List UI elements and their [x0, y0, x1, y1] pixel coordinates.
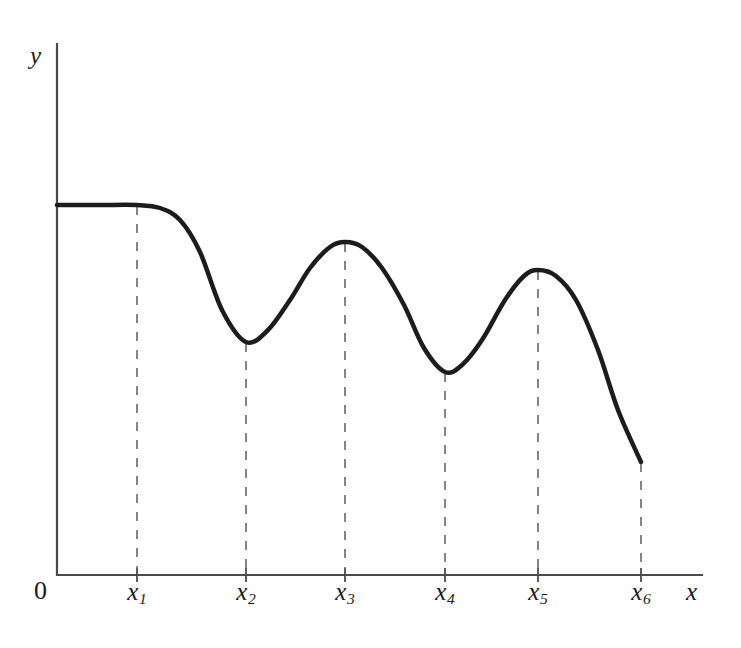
y-axis-label: y — [30, 42, 41, 70]
tick-label-x6-base: x — [631, 578, 642, 605]
x-axis-label: x — [686, 578, 697, 606]
tick-label-x5-base: x — [528, 578, 539, 605]
tick-label-x2-sub: 2 — [248, 590, 256, 607]
tick-label-x1-base: x — [127, 578, 138, 605]
tick-label-x2-base: x — [236, 578, 247, 605]
tick-label-x1-sub: 1 — [139, 590, 147, 607]
tick-label-x4: x4 — [435, 578, 454, 608]
tick-label-x5-sub: 5 — [540, 590, 548, 607]
tick-label-x2: x2 — [236, 578, 255, 608]
tick-label-x4-base: x — [435, 578, 446, 605]
tick-label-x3-sub: 3 — [347, 590, 355, 607]
origin-label: 0 — [34, 576, 47, 606]
tick-label-x6: x6 — [631, 578, 650, 608]
tick-label-x3: x3 — [335, 578, 354, 608]
function-curve — [57, 205, 641, 462]
tick-label-x3-base: x — [335, 578, 346, 605]
plot-svg — [0, 0, 741, 648]
dashed-guide-lines-group — [137, 206, 641, 569]
tick-label-x4-sub: 4 — [447, 590, 455, 607]
figure-canvas: y x 0 x1 x2 x3 x4 x5 x6 — [0, 0, 741, 648]
tick-label-x5: x5 — [528, 578, 547, 608]
tick-label-x1: x1 — [127, 578, 146, 608]
tick-label-x6-sub: 6 — [643, 590, 651, 607]
